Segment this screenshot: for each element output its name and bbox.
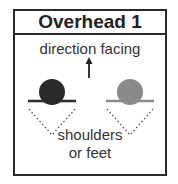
diagram-frame: Overhead 1 direction facing shoulders or…: [13, 9, 167, 176]
shoulders-label: shoulders or feet: [15, 126, 165, 162]
diagram-title: Overhead 1: [15, 11, 165, 35]
direction-label: direction facing: [15, 40, 165, 57]
shoulders-label-line1: shoulders: [15, 126, 165, 144]
shoulders-label-line2: or feet: [15, 144, 165, 162]
